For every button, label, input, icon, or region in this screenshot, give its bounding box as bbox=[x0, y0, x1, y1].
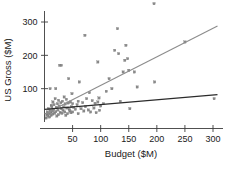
data-point bbox=[61, 112, 63, 114]
data-point bbox=[85, 98, 87, 100]
data-point bbox=[129, 108, 131, 110]
data-point bbox=[82, 102, 84, 104]
x-tick-label: 300 bbox=[205, 134, 220, 144]
data-point bbox=[78, 81, 80, 83]
data-point bbox=[213, 98, 215, 100]
data-point bbox=[80, 108, 82, 110]
data-point bbox=[98, 109, 100, 111]
data-point bbox=[83, 110, 85, 112]
data-point bbox=[52, 101, 54, 103]
data-point bbox=[105, 90, 107, 92]
data-point bbox=[97, 61, 99, 63]
data-point bbox=[71, 103, 73, 105]
data-point bbox=[60, 64, 62, 66]
y-tick-label: 200 bbox=[22, 51, 37, 61]
data-point bbox=[133, 71, 135, 73]
data-point bbox=[64, 111, 66, 113]
data-point bbox=[68, 78, 70, 80]
x-axis-tick-labels: 50100150200250300 bbox=[68, 134, 221, 144]
x-tick-label: 100 bbox=[93, 134, 108, 144]
data-point bbox=[51, 106, 53, 108]
data-point bbox=[65, 98, 67, 100]
data-point bbox=[71, 93, 73, 95]
data-point bbox=[126, 58, 128, 60]
data-point bbox=[76, 104, 78, 106]
data-point bbox=[95, 112, 97, 114]
data-point bbox=[71, 111, 73, 113]
data-point bbox=[124, 59, 126, 61]
data-point bbox=[153, 3, 155, 5]
data-point bbox=[94, 102, 96, 104]
data-point bbox=[119, 100, 121, 102]
data-point bbox=[61, 100, 63, 102]
data-point bbox=[53, 104, 55, 106]
data-point bbox=[49, 88, 51, 90]
data-point bbox=[55, 111, 57, 113]
data-point bbox=[63, 96, 65, 98]
data-point bbox=[77, 113, 79, 115]
data-point bbox=[114, 49, 116, 51]
data-point bbox=[56, 103, 58, 105]
plot-canvas: 100200300 50100150200250300 Budget ($M) … bbox=[0, 0, 231, 174]
data-point bbox=[111, 88, 113, 90]
x-tick-label: 50 bbox=[68, 134, 78, 144]
scatter-plot-figure: 100200300 50100150200250300 Budget ($M) … bbox=[0, 0, 231, 174]
data-point bbox=[122, 71, 124, 73]
data-point bbox=[116, 28, 118, 30]
x-tick-label: 150 bbox=[121, 134, 136, 144]
data-point bbox=[84, 34, 86, 36]
x-tick-label: 250 bbox=[177, 134, 192, 144]
data-point bbox=[55, 88, 57, 90]
data-point bbox=[87, 109, 89, 111]
data-point bbox=[108, 78, 110, 80]
data-point bbox=[125, 44, 127, 46]
regression-lines-group bbox=[45, 26, 218, 114]
y-tick-label: 100 bbox=[22, 84, 37, 94]
data-point bbox=[91, 100, 93, 102]
data-point bbox=[98, 97, 100, 99]
x-tick-label: 200 bbox=[149, 134, 164, 144]
y-axis-tick-labels: 100200300 bbox=[22, 17, 37, 94]
x-axis-title: Budget ($M) bbox=[105, 148, 157, 159]
data-point bbox=[93, 107, 95, 109]
data-point bbox=[97, 101, 99, 103]
data-point bbox=[54, 98, 56, 100]
data-point bbox=[77, 100, 79, 102]
regression-line-upper-trend bbox=[45, 26, 218, 114]
x-axis-group: 50100150200250300 bbox=[40, 125, 223, 144]
y-tick-label: 300 bbox=[22, 17, 37, 27]
data-point bbox=[117, 53, 119, 55]
data-point bbox=[89, 111, 91, 113]
data-point bbox=[57, 99, 59, 101]
data-point bbox=[57, 114, 59, 116]
data-point bbox=[153, 81, 155, 83]
y-axis-group: 100200300 bbox=[22, 11, 48, 122]
data-point bbox=[66, 113, 68, 115]
data-point bbox=[136, 86, 138, 88]
data-point bbox=[74, 108, 76, 110]
data-point bbox=[57, 109, 59, 111]
y-axis-title: US Gross ($M) bbox=[2, 38, 13, 101]
